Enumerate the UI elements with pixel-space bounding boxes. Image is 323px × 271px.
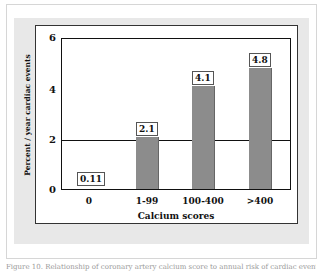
x-tick-0: 0 (61, 196, 117, 206)
bar-100-400 (192, 86, 215, 189)
figure-caption: Figure 10. Relationship of coronary arte… (6, 263, 316, 271)
y-axis-label: Percent / year cardiac events (23, 54, 32, 175)
x-axis-label: Calcium scores (61, 211, 291, 221)
y-tick-4: 4 (42, 84, 56, 95)
x-axis-line (61, 189, 291, 190)
y-tick-0: 0 (42, 184, 56, 195)
x-tick-gt400: >400 (232, 196, 288, 206)
bar-gt400 (249, 68, 272, 189)
bar-1-99 (136, 137, 159, 189)
x-tick-100-400: 100-400 (175, 196, 231, 206)
value-label-1-99: 2.1 (136, 122, 158, 136)
x-tick-1-99: 1-99 (119, 196, 175, 206)
y-tick-6: 6 (42, 32, 56, 43)
value-label-100-400: 4.1 (192, 71, 214, 85)
y-tick-2: 2 (42, 134, 56, 145)
value-label-gt400: 4.8 (249, 53, 271, 67)
value-label-0: 0.11 (77, 172, 105, 186)
